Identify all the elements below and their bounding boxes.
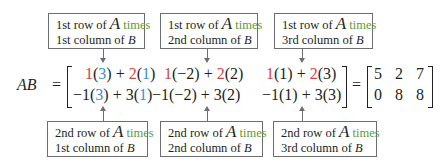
label-row1-col3: 1st row of A times 3rd column of B bbox=[274, 13, 373, 49]
plus: + bbox=[298, 86, 315, 103]
entry-r1c1: 1(3) + 2(1) bbox=[85, 65, 155, 83]
connector-line bbox=[302, 110, 303, 121]
b-val: 1 bbox=[139, 86, 147, 103]
coef: 3 bbox=[315, 86, 323, 103]
coef: 2 bbox=[310, 65, 318, 82]
equals-sign: = bbox=[52, 76, 61, 94]
var-b: B bbox=[355, 141, 363, 155]
label-text: 1st row of bbox=[282, 18, 336, 32]
connector-line bbox=[103, 110, 104, 121]
entry-r2c1: −1(3) + 3(1) bbox=[73, 86, 152, 104]
result-r1c1: 5 bbox=[374, 65, 382, 83]
result-left-bracket bbox=[367, 66, 372, 108]
label-row2-col3: 2nd row of A times 3rd column of B bbox=[273, 121, 377, 157]
label-text: 2nd row of bbox=[55, 126, 113, 140]
result-r2c1: 0 bbox=[374, 86, 382, 104]
plus: + bbox=[197, 86, 214, 103]
b-val: (2) bbox=[222, 86, 241, 103]
b-val: (1) bbox=[274, 65, 293, 82]
coef: −1 bbox=[152, 86, 169, 103]
right-bracket bbox=[342, 66, 347, 108]
label-text: 2nd column of bbox=[168, 33, 244, 47]
var-a: A bbox=[336, 14, 346, 33]
coef: 1 bbox=[85, 65, 93, 82]
b-val: (3) bbox=[323, 86, 342, 103]
var-b: B bbox=[244, 141, 252, 155]
entry-r1c2: 1(−2) + 2(2) bbox=[164, 65, 243, 83]
connector-line bbox=[207, 110, 208, 121]
label-text: 2nd row of bbox=[168, 126, 226, 140]
coef: 1 bbox=[266, 65, 274, 82]
coef: −1 bbox=[262, 86, 279, 103]
b-val: (2) bbox=[225, 65, 244, 82]
times-word: times bbox=[123, 18, 150, 32]
label-text: 2nd column of bbox=[168, 141, 244, 155]
times-word: times bbox=[353, 126, 380, 140]
var-a: A bbox=[226, 122, 236, 141]
product-label: AB bbox=[17, 76, 37, 94]
b-val: (1) bbox=[279, 86, 298, 103]
var-b: B bbox=[127, 141, 135, 155]
coef: 2 bbox=[129, 65, 137, 82]
label-text: 3rd column of bbox=[281, 141, 355, 155]
label-text: 1st column of bbox=[56, 33, 128, 47]
var-a: A bbox=[110, 14, 120, 33]
label-row2-col1: 2nd row of A times 1st column of B bbox=[47, 121, 148, 157]
arrow-down-icon bbox=[299, 58, 305, 63]
label-row2-col2: 2nd row of A times 2nd column of B bbox=[160, 121, 263, 157]
label-text: 2nd row of bbox=[281, 126, 339, 140]
entry-r1c3: 1(1) + 2(3) bbox=[266, 65, 336, 83]
label-text: 1st column of bbox=[55, 141, 127, 155]
label-row1-col1: 1st row of A times 1st column of B bbox=[48, 13, 145, 49]
coef: 1 bbox=[164, 65, 172, 82]
result-r1c3: 7 bbox=[416, 65, 424, 83]
times-word: times bbox=[349, 18, 376, 32]
plus: + bbox=[109, 86, 126, 103]
label-text: 3rd column of bbox=[282, 33, 356, 47]
b-val: (3) bbox=[318, 65, 337, 82]
times-word: times bbox=[235, 18, 262, 32]
var-a: A bbox=[222, 14, 232, 33]
var-b: B bbox=[128, 33, 136, 47]
times-word: times bbox=[240, 126, 267, 140]
result-r2c3: 8 bbox=[416, 86, 424, 104]
b-val: (−2) bbox=[169, 86, 197, 103]
result-r2c2: 8 bbox=[395, 86, 403, 104]
label-text: 1st row of bbox=[168, 18, 222, 32]
arrow-down-icon bbox=[204, 58, 210, 63]
label-text: 1st row of bbox=[56, 18, 110, 32]
plus: + bbox=[200, 65, 217, 82]
result-right-bracket bbox=[428, 66, 433, 108]
var-b: B bbox=[356, 33, 364, 47]
coef: 3 bbox=[214, 86, 222, 103]
b-val: 1 bbox=[142, 65, 150, 82]
entry-r2c3: −1(1) + 3(3) bbox=[262, 86, 341, 104]
paren: ) bbox=[150, 65, 155, 82]
var-a: A bbox=[339, 122, 349, 141]
coef: 2 bbox=[217, 65, 225, 82]
coef: 3 bbox=[126, 86, 134, 103]
label-row1-col2: 1st row of A times 2nd column of B bbox=[160, 13, 258, 49]
result-r1c2: 2 bbox=[395, 65, 403, 83]
plus: + bbox=[112, 65, 129, 82]
left-bracket bbox=[67, 66, 72, 108]
entry-r2c2: −1(−2) + 3(2) bbox=[152, 86, 240, 104]
coef: −1 bbox=[73, 86, 90, 103]
times-word: times bbox=[127, 126, 154, 140]
var-a: A bbox=[113, 122, 123, 141]
var-b: B bbox=[244, 33, 252, 47]
equals-sign: = bbox=[352, 76, 361, 94]
plus: + bbox=[293, 65, 310, 82]
arrow-down-icon bbox=[100, 58, 106, 63]
b-val: (−2) bbox=[172, 65, 200, 82]
